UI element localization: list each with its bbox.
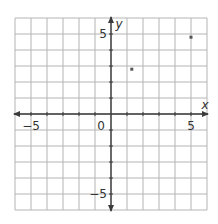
coordinate-plane: −555−50xy [0, 0, 218, 224]
x-axis-label: x [200, 98, 209, 112]
x-tick-label: −5 [22, 119, 40, 133]
data-point [190, 36, 193, 39]
y-axis-label: y [114, 17, 123, 31]
y-tick-label: −5 [89, 187, 107, 201]
axes [13, 16, 209, 212]
x-axis-left-arrow-icon [13, 111, 20, 117]
origin-label: 0 [97, 119, 105, 133]
y-axis-down-arrow-icon [108, 205, 114, 212]
x-tick-label: 5 [187, 119, 195, 133]
y-axis-up-arrow-icon [108, 16, 114, 23]
axis-labels: −555−50xy [22, 17, 209, 201]
data-point [130, 68, 133, 71]
y-tick-label: 5 [99, 27, 107, 41]
data-points [130, 36, 192, 71]
